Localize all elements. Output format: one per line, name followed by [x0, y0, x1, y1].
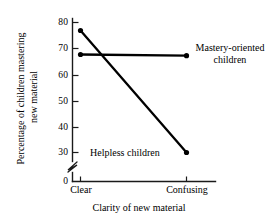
- chart-figure: 80 70 60 50 40 30 0 Clear Confusing Clar…: [0, 0, 271, 224]
- y-tick-label-70: 70: [50, 43, 68, 53]
- data-point-mastery-clear: [78, 52, 83, 57]
- x-axis-title: Clarity of new material: [69, 202, 209, 214]
- series-label-mastery-line2: children: [190, 54, 270, 66]
- x-tick-label-clear: Clear: [58, 184, 104, 195]
- y-axis-break-icon: [68, 162, 77, 172]
- y-tick-label-30: 30: [50, 147, 68, 157]
- y-tick-label-40: 40: [50, 122, 68, 132]
- data-point-helpless-clear: [78, 28, 83, 33]
- data-point-mastery-confusing: [184, 53, 189, 58]
- y-axis-title-line2: new material: [27, 42, 40, 152]
- series-label-helpless: Helpless children: [90, 147, 186, 159]
- y-tick-label-80: 80: [50, 17, 68, 27]
- y-tick-label-50: 50: [50, 96, 68, 106]
- chart-canvas: [0, 0, 271, 224]
- series-line-mastery: [81, 55, 187, 56]
- x-tick-label-confusing: Confusing: [156, 184, 218, 195]
- y-axis-title-line1: Percentage of children mastering: [14, 16, 27, 181]
- series-line-helpless: [81, 31, 187, 153]
- y-tick-label-60: 60: [50, 70, 68, 80]
- series-label-mastery-line1: Mastery-oriented: [190, 42, 270, 54]
